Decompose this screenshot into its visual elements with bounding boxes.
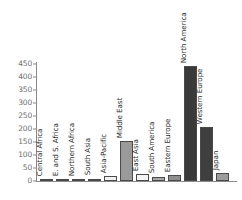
bar-category-label: Northern Africa [68, 123, 75, 176]
bar-category-label: Middle East [116, 97, 123, 137]
bar-chart: 050100150200250300350400450 Central Afri… [0, 0, 242, 200]
bar [168, 175, 181, 181]
y-axis-tick-labels: 050100150200250300350400450 [0, 0, 32, 200]
bar-category-label: E. and S. Africa [52, 124, 59, 177]
y-tick-label: 400 [18, 73, 32, 81]
bar-category-label: Western Europe [196, 69, 203, 125]
bar [104, 176, 117, 181]
bar-category-label: North America [180, 12, 187, 63]
bar-category-label: East Asia [132, 139, 139, 171]
bar [152, 177, 165, 181]
bar [56, 179, 69, 181]
y-tick-label: 100 [18, 151, 32, 159]
y-tick-label: 250 [18, 112, 32, 120]
y-tick-label: 0 [27, 177, 32, 185]
y-tick-label: 300 [18, 99, 32, 107]
bar [72, 179, 85, 181]
bar-category-label: Eastern Europe [164, 119, 171, 172]
bar-series: Central AfricaE. and S. AfricaNorthern A… [36, 0, 236, 200]
bar-category-label: South America [148, 122, 155, 174]
bar [88, 179, 101, 181]
bar-category-label: Japan [212, 151, 219, 171]
y-tick-label: 200 [18, 125, 32, 133]
y-tick-label: 450 [18, 60, 32, 68]
bar-category-label: Central Africa [36, 129, 43, 177]
bar [216, 173, 229, 181]
bar [136, 174, 149, 181]
bar-category-label: Asia-Pacific [100, 134, 107, 173]
y-tick-label: 150 [18, 138, 32, 146]
y-tick-label: 350 [18, 86, 32, 94]
bar-category-label: South Asia [84, 138, 91, 175]
y-tick-label: 50 [23, 164, 32, 172]
bar [40, 179, 53, 181]
